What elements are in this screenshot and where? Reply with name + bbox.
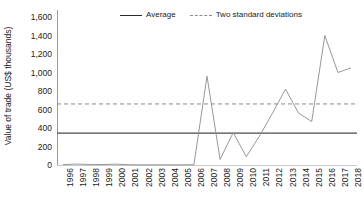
x-axis-tick-label: 1997 xyxy=(79,168,88,187)
y-axis-title-text: Value of trade (US$ thousands) xyxy=(3,27,13,145)
y-axis-tick-label: 0 xyxy=(47,161,52,170)
x-axis-tick-label: 1999 xyxy=(105,168,114,187)
x-axis-tick-label: 1996 xyxy=(66,168,75,187)
x-axis-tick-label: 2016 xyxy=(328,168,337,187)
data-series-line xyxy=(63,36,351,165)
x-axis-tick-label: 2001 xyxy=(131,168,140,187)
x-axis-tick-label: 2005 xyxy=(184,168,193,187)
x-axis-tick-label: 2014 xyxy=(302,168,311,187)
x-axis-tick-label: 2002 xyxy=(145,168,154,187)
y-axis-tick-label: 800 xyxy=(38,87,52,96)
x-axis-tick-label: 2007 xyxy=(210,168,219,187)
y-axis-tick-labels: 1,6001,4001,2001,0008006004002000 xyxy=(16,0,54,172)
x-axis-tick-label: 2004 xyxy=(171,168,180,187)
y-axis-tick-label: 600 xyxy=(38,106,52,115)
x-axis-tick-label: 2011 xyxy=(262,168,271,186)
x-axis-tick-label: 1998 xyxy=(92,168,101,187)
x-axis-tick-label: 2003 xyxy=(158,168,167,187)
plot-svg xyxy=(57,10,357,166)
y-axis-tick-label: 400 xyxy=(38,124,52,133)
x-axis-tick-label: 2009 xyxy=(236,168,245,187)
y-axis-title: Value of trade (US$ thousands) xyxy=(0,0,16,172)
x-axis-tick-label: 2006 xyxy=(197,168,206,187)
trade-value-line-chart: Average Two standard deviations Value of… xyxy=(0,0,364,212)
x-axis-tick-label: 2008 xyxy=(223,168,232,187)
x-axis-tick-label: 2010 xyxy=(249,168,258,187)
x-axis-tick-labels: 1996199719981999200020012002200320042005… xyxy=(57,168,357,212)
y-axis-tick-label: 1,200 xyxy=(31,50,52,59)
y-axis-tick-label: 1,000 xyxy=(31,69,52,78)
x-axis-tick-label: 2017 xyxy=(341,168,350,187)
x-axis-tick-label: 2018 xyxy=(354,168,363,187)
x-axis-tick-label: 2012 xyxy=(275,168,284,187)
y-axis-tick-label: 200 xyxy=(38,143,52,152)
x-axis-tick-label: 2013 xyxy=(289,168,298,187)
plot-area xyxy=(57,10,357,166)
y-axis-tick-label: 1,400 xyxy=(31,32,52,41)
x-axis-tick-label: 2000 xyxy=(118,168,127,187)
x-axis-tick-label: 2015 xyxy=(315,168,324,187)
y-axis-tick-label: 1,600 xyxy=(31,13,52,22)
